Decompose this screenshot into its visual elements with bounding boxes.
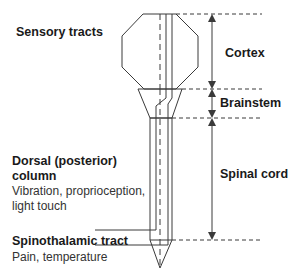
brainstem-label: Brainstem <box>220 96 281 111</box>
spinothalamic-desc: Pain, temperature <box>12 250 107 264</box>
cortex-label: Cortex <box>225 46 265 61</box>
spinal-cord-label: Spinal cord <box>220 167 288 182</box>
dorsal-column-desc-line1: Vibration, proprioception, <box>12 184 145 198</box>
sensory-tracts-title: Sensory tracts <box>16 25 103 40</box>
dorsal-column-title-line2: column <box>12 169 56 184</box>
dorsal-column-desc-line2: light touch <box>12 199 67 213</box>
nervous-system-diagram <box>0 0 296 274</box>
spinothalamic-title: Spinothalamic tract <box>12 234 128 249</box>
dorsal-column-title-line1: Dorsal (posterior) <box>12 154 117 169</box>
